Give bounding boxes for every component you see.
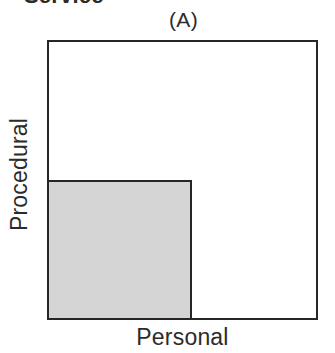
y-axis-label: Procedural	[0, 0, 40, 353]
y-axis-label-text: Procedural	[7, 118, 34, 231]
inner-shaded-rectangle	[47, 180, 192, 320]
x-axis-label: Personal	[47, 324, 318, 351]
panel-label-text: (A)	[169, 8, 198, 31]
figure-panel-a: Service (A) Procedural Personal	[0, 0, 335, 353]
panel-label: (A)	[0, 8, 335, 32]
